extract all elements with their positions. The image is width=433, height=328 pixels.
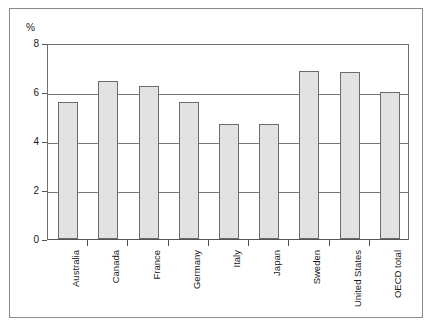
x-axis-tick-mark: [369, 240, 370, 246]
y-axis-tick-label: 2: [13, 186, 39, 196]
x-axis-tick-mark: [288, 240, 289, 246]
x-axis-tick-mark: [168, 240, 169, 246]
bar: [219, 124, 239, 239]
plot-area: [47, 44, 409, 240]
x-axis-category-label: Canada: [111, 250, 121, 283]
x-axis-tick-mark: [248, 240, 249, 246]
bar: [179, 102, 199, 239]
y-axis-unit-label: %: [26, 23, 35, 33]
x-axis-category-label: Australia: [71, 250, 81, 287]
chart-figure: % 02468AustraliaCanadaFranceGermanyItaly…: [0, 0, 433, 328]
x-axis-tick-mark: [127, 240, 128, 246]
bar: [58, 102, 78, 239]
x-axis-category-label: Italy: [232, 250, 242, 267]
y-axis-tick-label: 4: [13, 137, 39, 147]
bar: [340, 72, 360, 239]
y-axis-tick-mark: [42, 191, 47, 192]
bar: [98, 81, 118, 239]
bar: [139, 86, 159, 239]
bar: [299, 71, 319, 239]
x-axis-category-label: Japan: [272, 250, 282, 276]
x-axis-category-label: Sweden: [312, 250, 322, 284]
y-axis-tick-mark: [42, 142, 47, 143]
x-axis-tick-mark: [329, 240, 330, 246]
x-axis-tick-mark: [208, 240, 209, 246]
x-axis-category-label: Germany: [192, 250, 202, 289]
x-axis-category-label: United States: [353, 250, 363, 307]
y-axis-tick-label: 8: [13, 39, 39, 49]
bar: [380, 92, 400, 239]
x-axis-tick-mark: [87, 240, 88, 246]
x-axis-category-label: France: [152, 250, 162, 280]
y-axis-tick-mark: [42, 240, 47, 241]
y-axis-tick-mark: [42, 93, 47, 94]
y-axis-tick-mark: [42, 44, 47, 45]
y-axis-tick-label: 0: [13, 235, 39, 245]
bar: [259, 124, 279, 239]
y-axis-tick-label: 6: [13, 88, 39, 98]
x-axis-category-label: OECD total: [393, 250, 403, 298]
